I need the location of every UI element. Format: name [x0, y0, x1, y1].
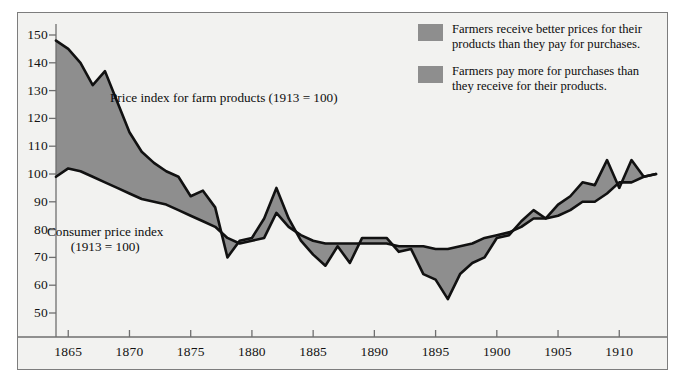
- legend-item-farmers-better-prices: Farmers receive better prices for their …: [418, 22, 658, 52]
- y-axis-tick-label: 110: [14, 139, 48, 153]
- y-axis-tick-label: 100: [14, 167, 48, 181]
- legend-item-label: Farmers receive better prices for their …: [452, 22, 658, 52]
- consumer-price-series-label-line1: Consumer price index: [47, 224, 163, 239]
- y-axis-tick-label: 140: [14, 56, 48, 70]
- x-axis-tick-label: 1895: [411, 345, 461, 359]
- y-axis-tick-label: 70: [14, 250, 48, 264]
- y-axis-tick-label: 80: [14, 223, 48, 237]
- y-axis-tick-label: 50: [14, 306, 48, 320]
- chart-legend: Farmers receive better prices for their …: [418, 22, 658, 105]
- area-band-segment: [56, 41, 221, 233]
- y-axis-tick-label: 60: [14, 278, 48, 292]
- y-axis-tick-label: 130: [14, 84, 48, 98]
- consumer-price-series-label: Consumer price index (1913 = 100): [47, 224, 163, 255]
- x-axis-tick-label: 1890: [349, 345, 399, 359]
- legend-item-farmers-pay-more: Farmers pay more for purchases than they…: [418, 64, 658, 94]
- legend-swatch-icon: [418, 24, 443, 41]
- x-axis-tick-label: 1870: [104, 345, 154, 359]
- x-axis-tick-label: 1880: [227, 345, 277, 359]
- x-axis-tick-label: 1900: [472, 345, 522, 359]
- x-axis-tick-label: 1885: [288, 345, 338, 359]
- legend-swatch-icon: [418, 66, 443, 83]
- y-axis-tick-label: 120: [14, 111, 48, 125]
- y-axis-tick-label: 150: [14, 28, 48, 42]
- chart-figure: 5060708090100110120130140150 18651870187…: [0, 0, 682, 383]
- farm-products-series-label: Price index for farm products (1913 = 10…: [110, 90, 338, 105]
- legend-item-label: Farmers pay more for purchases than they…: [452, 64, 658, 94]
- x-axis-tick-label: 1865: [43, 345, 93, 359]
- x-axis-tick-label: 1875: [166, 345, 216, 359]
- x-axis-tick-label: 1905: [533, 345, 583, 359]
- x-axis-tick-label: 1910: [594, 345, 644, 359]
- y-axis-tick-label: 90: [14, 195, 48, 209]
- consumer-price-series-label-line2: (1913 = 100): [47, 239, 163, 254]
